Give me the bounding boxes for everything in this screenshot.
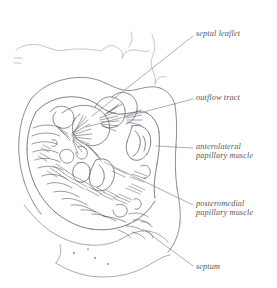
label-line: posteromedial <box>196 199 253 208</box>
anatomical-figure: septal leaflet outflow tract anterolater… <box>0 0 277 288</box>
label-line: septum <box>196 262 220 271</box>
label-septal-leaflet: septal leaflet <box>196 29 240 38</box>
label-outflow-tract: outflow tract <box>196 93 240 102</box>
label-line: outflow tract <box>196 93 240 102</box>
label-posteromedial-papillary-muscle: posteromedialpapillary muscle <box>196 199 253 218</box>
label-anterolateral-papillary-muscle: anterolateralpapillary muscle <box>196 142 253 161</box>
label-line: septal leaflet <box>196 29 240 38</box>
label-line: anterolateral <box>196 142 253 151</box>
label-line: papillary muscle <box>196 151 253 160</box>
label-septum: septum <box>196 262 220 271</box>
label-line: papillary muscle <box>196 208 253 217</box>
